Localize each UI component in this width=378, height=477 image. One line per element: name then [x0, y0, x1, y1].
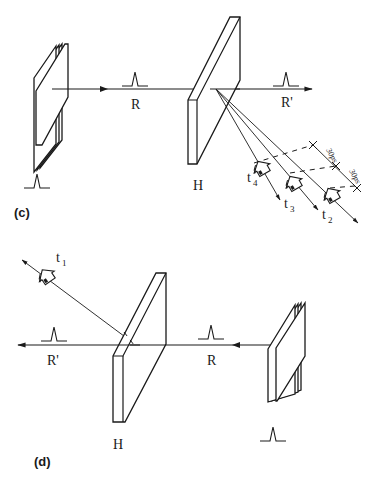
ray-t3: [216, 89, 318, 210]
dimension-label-2: 30ps: [347, 167, 363, 185]
svg-text:1: 1: [62, 258, 67, 268]
label-t3: t: [284, 196, 288, 211]
panel-label-d: (d): [34, 454, 51, 469]
svg-text:4: 4: [253, 178, 258, 188]
pulse-icon-r-d: [198, 325, 224, 339]
pulse-icon-r-c: [122, 72, 148, 86]
label-rprime-c: R': [281, 95, 293, 110]
dimension-label-1: 30ps: [324, 146, 340, 164]
label-r-d: R: [207, 353, 217, 368]
pulse-icon-source-c: [24, 174, 50, 188]
observer-eye-icon-t4: [250, 157, 273, 178]
label-r-c: R: [131, 97, 141, 112]
pulse-icon-source-d: [260, 427, 286, 441]
svg-text:3: 3: [290, 204, 295, 214]
ray-t1: [22, 260, 140, 348]
label-t1: t: [56, 250, 60, 265]
observer-eye-icon-t1: [35, 265, 58, 287]
panel-c: R H R' 30ps 30ps t: [14, 17, 363, 225]
hologram-plate-c: [188, 17, 240, 164]
source-plate-stack-c: [34, 44, 68, 172]
label-h-d: H: [113, 437, 123, 452]
pulse-icon-rprime-c: [273, 72, 299, 86]
label-h-c: H: [193, 178, 203, 193]
label-rprime-d: R': [47, 353, 59, 368]
panel-d: t 1 H R R' (d): [18, 250, 305, 469]
hologram-plate-d: [113, 273, 166, 422]
observer-eye-icon-t2: [320, 184, 343, 205]
pulse-icon-rprime-d: [41, 327, 67, 341]
label-t4: t: [247, 170, 251, 185]
svg-text:2: 2: [328, 215, 333, 225]
source-plate-stack-d: [268, 303, 305, 402]
label-t2: t: [322, 207, 326, 222]
holography-diagram: R H R' 30ps 30ps t: [0, 0, 378, 477]
panel-label-c: (c): [14, 205, 30, 220]
